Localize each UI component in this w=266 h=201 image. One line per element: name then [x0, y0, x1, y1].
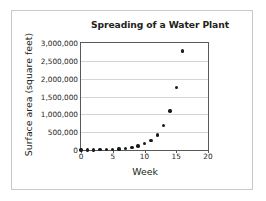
data-point — [124, 147, 127, 150]
x-axis-tick-label: 15 — [172, 152, 181, 161]
data-point — [111, 148, 114, 151]
gridline — [81, 132, 208, 133]
data-point — [149, 139, 152, 142]
y-axis-tick-label: 2,500,000 — [41, 56, 78, 65]
data-point — [175, 86, 178, 89]
data-point — [156, 133, 159, 136]
y-axis-tick-label: 2,000,000 — [41, 74, 78, 83]
data-point — [105, 148, 108, 151]
x-axis-label: Week — [70, 166, 220, 177]
data-point — [136, 144, 139, 147]
data-point — [130, 146, 133, 149]
gridline — [81, 97, 208, 98]
x-axis-tick-label: 0 — [79, 152, 84, 161]
data-point — [181, 49, 184, 52]
data-point — [86, 148, 89, 151]
gridline — [81, 79, 208, 80]
data-point — [117, 147, 120, 150]
x-axis-tick-label: 5 — [110, 152, 115, 161]
y-axis-tick-label: 1,000,000 — [41, 110, 78, 119]
chart-title: Spreading of a Water Plant — [72, 19, 248, 30]
y-axis-tick-label: 3,000,000 — [41, 39, 78, 48]
data-point — [168, 109, 171, 112]
y-axis-tick-label: 500,000 — [48, 128, 78, 137]
y-axis-tick-label: 0 — [73, 146, 78, 155]
y-axis-tick-label: 1,500,000 — [41, 92, 78, 101]
y-axis-label: Surface area (square feet) — [23, 30, 34, 160]
gridline — [81, 114, 208, 115]
plot-area: 0500,0001,000,0001,500,0002,000,0002,500… — [80, 42, 209, 151]
data-point — [98, 148, 101, 151]
chart-figure: Spreading of a Water Plant Surface area … — [11, 10, 253, 190]
x-axis-tick-label: 10 — [140, 152, 149, 161]
data-point — [162, 124, 165, 127]
data-point — [143, 142, 146, 145]
x-axis-tick-label: 20 — [203, 152, 212, 161]
gridline — [81, 61, 208, 62]
data-point — [79, 148, 82, 151]
data-point — [92, 148, 95, 151]
